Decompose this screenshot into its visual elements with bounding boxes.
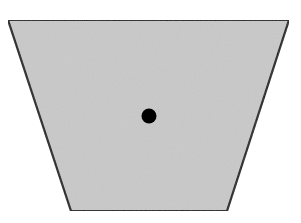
- trapezoid-figure: [0, 0, 301, 223]
- center-point-dot: [142, 109, 157, 124]
- diagram-canvas: [0, 0, 301, 223]
